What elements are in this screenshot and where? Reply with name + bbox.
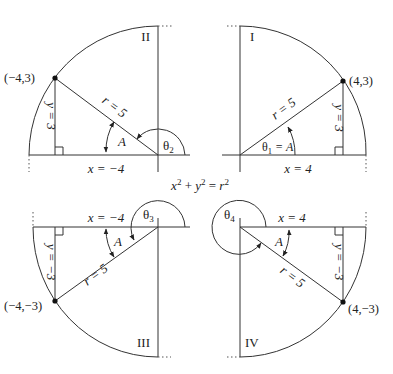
quadrant-label: IV — [245, 335, 259, 350]
y-label: y = 3 — [332, 102, 347, 132]
y-label: y = 3 — [44, 100, 59, 130]
right-angle-mark — [55, 227, 63, 235]
reference-angle-diagram: II (−4,3) x = −4 y = 3 r = 5 A θ2 I (4,3… — [0, 0, 393, 374]
y-label: y = −3 — [44, 242, 59, 281]
r-label: r = 5 — [99, 92, 130, 120]
right-angle-mark — [335, 227, 343, 235]
x-label: x = 4 — [283, 161, 312, 176]
r-label: r = 5 — [277, 262, 308, 290]
theta-label: θ2 — [163, 138, 174, 155]
point-dot — [52, 298, 57, 303]
quadrant-iv: IV (4,−3) x = 4 y = −3 r = 5 A θ4 — [212, 200, 379, 357]
theta-label: θ4 — [224, 207, 235, 224]
point-label: (−4,3) — [4, 71, 35, 85]
angle-a-label: A — [113, 234, 122, 249]
quadrant-ii: II (−4,3) x = −4 y = 3 r = 5 A θ2 — [4, 26, 190, 176]
quadrant-label: III — [137, 335, 150, 350]
point-label: (−4,−3) — [4, 299, 42, 313]
angle-a-label: A — [274, 234, 283, 249]
angle-a-arc — [283, 230, 289, 256]
x-label: x = −4 — [87, 161, 125, 176]
y-label: y = −3 — [332, 242, 347, 281]
r-label: r = 5 — [268, 94, 299, 122]
theta-label: θ3 — [143, 207, 154, 224]
angle-a-arc — [106, 229, 114, 257]
x-label: x = −4 — [87, 210, 125, 225]
quadrant-label: I — [250, 29, 254, 44]
angle-a-arc — [106, 122, 114, 152]
theta-arc — [137, 129, 185, 155]
quarter-circle-arc — [240, 26, 366, 155]
quadrant-label: II — [141, 29, 150, 44]
x-label: x = 4 — [277, 210, 306, 225]
right-angle-mark — [55, 147, 63, 155]
point-dot — [52, 75, 57, 80]
radius-line — [240, 227, 343, 302]
point-label: (4,−3) — [348, 302, 379, 316]
theta-label: θ1 = A — [262, 140, 294, 156]
point-dot — [340, 78, 345, 83]
point-dot — [340, 299, 345, 304]
right-angle-mark — [335, 147, 343, 155]
quarter-circle-arc — [29, 26, 158, 155]
point-label: (4,3) — [349, 74, 373, 88]
circle-equation: x2 + y2 = r2 — [170, 177, 229, 193]
quadrant-iii: III (−4,−3) x = −4 y = −3 r = 5 A θ3 — [4, 201, 190, 357]
angle-a-label: A — [117, 134, 126, 149]
quadrant-i: I (4,3) x = 4 y = 3 r = 5 θ1 = A — [222, 26, 373, 176]
